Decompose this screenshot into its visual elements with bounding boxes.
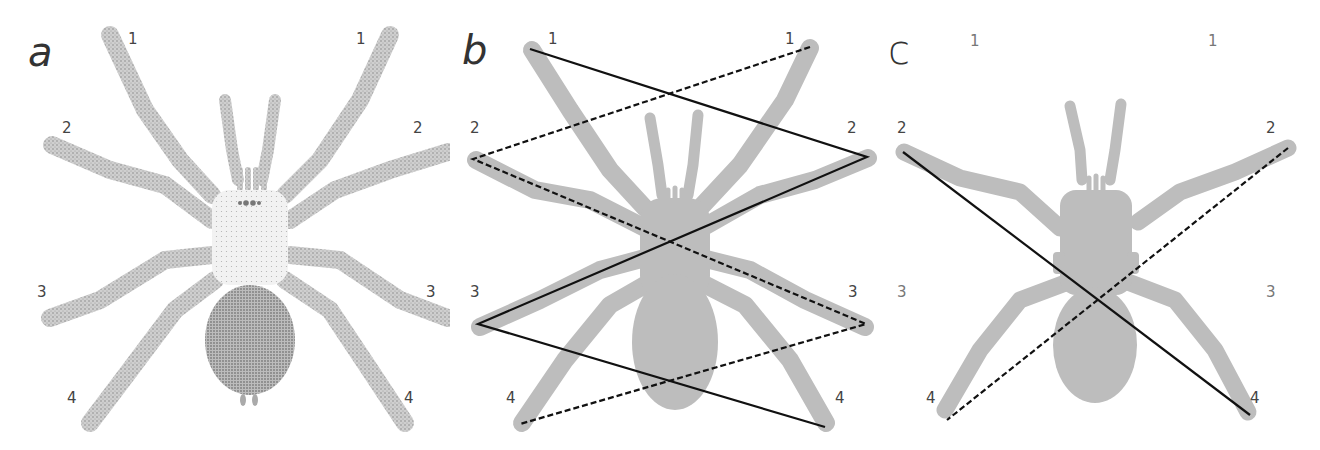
leg-label-right-2: 2 <box>1266 121 1276 136</box>
leg-label-right-1: 1 <box>1208 34 1218 49</box>
leg-label-left-2: 2 <box>897 121 907 136</box>
leg-label-left-3: 3 <box>470 285 480 300</box>
leg-label-left-1: 1 <box>548 32 558 47</box>
leg-label-left-4: 4 <box>926 391 936 406</box>
panel-letter-c: c <box>888 30 910 70</box>
leg-label-right-3: 3 <box>1266 285 1276 300</box>
cephalothorax <box>212 190 288 285</box>
spider-silhouette-b <box>440 0 890 450</box>
leg-label-left-2: 2 <box>470 121 480 136</box>
abdomen <box>205 285 295 395</box>
panel-c: c 1 1 2 2 3 3 4 4 <box>870 0 1320 450</box>
panel-letter-b: b <box>462 30 487 70</box>
leg-label-left-3: 3 <box>897 285 907 300</box>
leg-label-left-1: 1 <box>970 34 980 49</box>
leg-label-right-3: 3 <box>848 285 858 300</box>
spider-silhouette-c <box>870 0 1320 450</box>
leg-label-left-4: 4 <box>506 391 516 406</box>
spider-stippled-drawing <box>0 0 450 450</box>
leg-label-right-2: 2 <box>847 121 857 136</box>
panel-b: b 1 1 2 2 3 3 4 4 <box>440 0 880 450</box>
leg-label-right-4: 4 <box>835 391 845 406</box>
leg-label-right-1: 1 <box>785 32 795 47</box>
leg-label-right-4: 4 <box>1250 391 1260 406</box>
panel-a: a 1 1 2 2 3 3 4 4 <box>0 0 440 450</box>
